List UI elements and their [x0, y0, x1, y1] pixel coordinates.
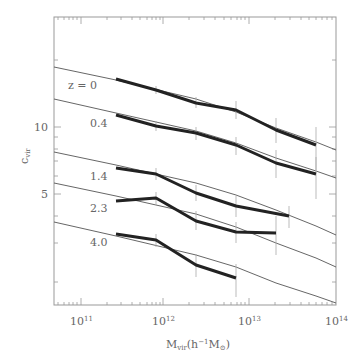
error-bars — [156, 86, 316, 297]
label-z0: z = 0 — [68, 79, 97, 92]
sim-curve-z04 — [116, 115, 316, 174]
x-tick-1e14: 1014 — [325, 315, 348, 328]
y-axis-label: cvir — [18, 148, 32, 164]
x-tick-1e11: 1011 — [70, 315, 93, 328]
label-z40: 4.0 — [90, 236, 108, 249]
y-tick-labels: 10 5 — [34, 121, 48, 201]
model-curve-z40 — [54, 222, 336, 303]
label-z23: 2.3 — [90, 202, 108, 215]
sim-curve-z0 — [116, 79, 316, 145]
series-labels: z = 0 0.4 1.4 2.3 4.0 — [68, 79, 108, 249]
x-tick-1e12: 1012 — [152, 315, 175, 328]
sim-curve-z14 — [116, 168, 289, 216]
simulation-curves — [116, 79, 316, 278]
label-z04: 0.4 — [90, 117, 108, 130]
x-tick-1e13: 1013 — [238, 315, 261, 328]
y-tick-5: 5 — [41, 188, 48, 201]
y-tick-10: 10 — [34, 121, 48, 134]
label-z14: 1.4 — [90, 170, 108, 183]
x-axis-label: Mvir(h−1M⊙) — [166, 338, 230, 352]
model-curve-z04 — [54, 99, 336, 178]
chart-canvas: z = 0 0.4 1.4 2.3 4.0 10 5 1011 1012 101… — [0, 0, 364, 353]
x-tick-labels: 1011 1012 1013 1014 — [70, 315, 348, 328]
